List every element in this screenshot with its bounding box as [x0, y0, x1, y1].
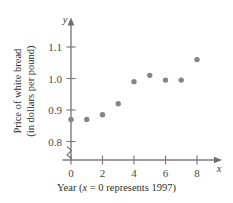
x-tick-label: 6 [163, 167, 169, 179]
data-point [131, 79, 136, 84]
x-tick-label: 8 [194, 167, 200, 179]
data-point [163, 77, 168, 82]
data-point [179, 77, 184, 82]
data-point [100, 112, 105, 117]
x-tick-label: 0 [68, 167, 74, 179]
x-axis-variable-label: x [216, 163, 222, 174]
y-tick-label: 1.0 [48, 73, 62, 85]
data-points-group [68, 57, 199, 122]
x-axis-title-suffix: = 0 represents 1997) [87, 182, 176, 193]
data-point [68, 117, 73, 122]
x-axis-title: Year (x = 0 represents 1997) [0, 182, 233, 193]
axes-group [63, 18, 222, 164]
data-point [116, 101, 121, 106]
y-tick-label: 0.9 [48, 104, 62, 116]
y-axis-arrowhead [68, 18, 75, 26]
y-tick-label: 1.1 [48, 41, 62, 53]
y-axis-variable-label: y [62, 14, 68, 25]
x-axis-title-prefix: Year ( [57, 182, 82, 193]
scatter-plot-figure: 1.1 1.0 0.9 0.8 0 2 4 6 8 y x Price of w… [0, 0, 233, 203]
y-axis-tick-labels: 1.1 1.0 0.9 0.8 [48, 41, 62, 148]
data-point [194, 57, 199, 62]
y-axis-title-line2: (in dollars per pound) [24, 21, 37, 161]
data-point [84, 117, 89, 122]
y-axis-title: Price of white bread (in dollars per pou… [11, 21, 37, 161]
x-tick-label: 4 [131, 167, 137, 179]
y-axis-title-line1: Price of white bread [11, 21, 24, 161]
x-tick-label: 2 [100, 167, 106, 179]
y-tick-label: 0.8 [48, 136, 62, 148]
data-point [147, 73, 152, 78]
x-axis-tick-labels: 0 2 4 6 8 [68, 167, 200, 179]
